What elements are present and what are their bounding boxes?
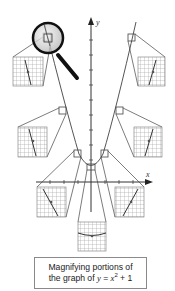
inset-bottom-vertex [78, 222, 106, 251]
inset-right-mid [134, 127, 162, 157]
y-axis [88, 17, 94, 212]
inset-grids [13, 57, 165, 251]
figure-caption: Magnifying portions of the graph of y = … [34, 257, 147, 289]
x-axis-label: x [145, 170, 150, 179]
parabola-magnification-figure: y x [0, 0, 175, 291]
x-axis [36, 179, 153, 185]
inset-right-top [138, 57, 165, 86]
caption-line-1: Magnifying portions of [35, 262, 146, 273]
inset-right-low [115, 187, 144, 217]
y-axis-label: y [95, 18, 100, 27]
inset-left-top [13, 57, 43, 86]
caption-line-2: the graph of y = x2 + 1 [35, 273, 146, 284]
inset-left-low [37, 187, 66, 217]
inset-left-mid [18, 127, 47, 157]
